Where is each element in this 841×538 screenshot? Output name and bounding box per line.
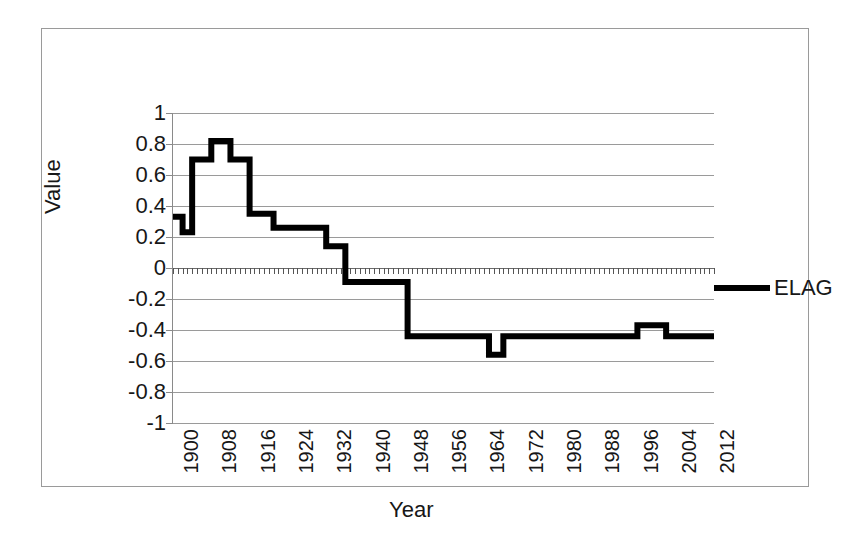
- x-tick-label: 1996: [641, 429, 661, 474]
- x-tick-label: 2004: [679, 429, 699, 474]
- x-tick-label: 1948: [411, 429, 431, 474]
- y-tick-label: -0.4: [96, 319, 166, 341]
- x-tick-label: 1924: [296, 429, 316, 474]
- y-tick-label: 0.4: [96, 195, 166, 217]
- gridline-neg1: [173, 423, 714, 424]
- x-tick-label: 1940: [373, 429, 393, 474]
- y-tick-label: 0.8: [96, 133, 166, 155]
- x-tick-label: 1900: [181, 429, 201, 474]
- y-tick-label: 1: [96, 102, 166, 124]
- zero-axis-tick: [714, 268, 715, 274]
- plot-area: [173, 113, 714, 423]
- y-tick-label: -0.8: [96, 381, 166, 403]
- y-axis-labels: 10.80.60.40.20-0.2-0.4-0.6-0.8-1: [82, 29, 166, 486]
- y-axis-title: Value: [40, 159, 66, 214]
- legend-swatch-elag: [714, 285, 770, 291]
- x-tick-label: 1988: [602, 429, 622, 474]
- y-tick-label: 0.6: [96, 164, 166, 186]
- chart-frame: Value 10.80.60.40.20-0.2-0.4-0.6-0.8-1 1…: [41, 28, 809, 487]
- x-tick-label: 1908: [219, 429, 239, 474]
- legend-label-elag: ELAG: [774, 277, 833, 299]
- y-tick-label: -0.6: [96, 350, 166, 372]
- series-elag-line: [173, 113, 714, 423]
- chart-legend: ELAG: [714, 277, 833, 299]
- y-tick-label: -1: [96, 412, 166, 434]
- y-tick-label: 0.2: [96, 226, 166, 248]
- x-tick-label: 1964: [487, 429, 507, 474]
- x-tick-label: 1956: [449, 429, 469, 474]
- x-tick-label: 1980: [564, 429, 584, 474]
- y-tick-label: -0.2: [96, 288, 166, 310]
- x-tick-label: 2012: [717, 429, 737, 474]
- x-tick-label: 1932: [334, 429, 354, 474]
- y-tick-label: 0: [96, 257, 166, 279]
- x-tick-label: 1972: [526, 429, 546, 474]
- x-tick-label: 1916: [258, 429, 278, 474]
- x-axis-title: Year: [389, 497, 433, 523]
